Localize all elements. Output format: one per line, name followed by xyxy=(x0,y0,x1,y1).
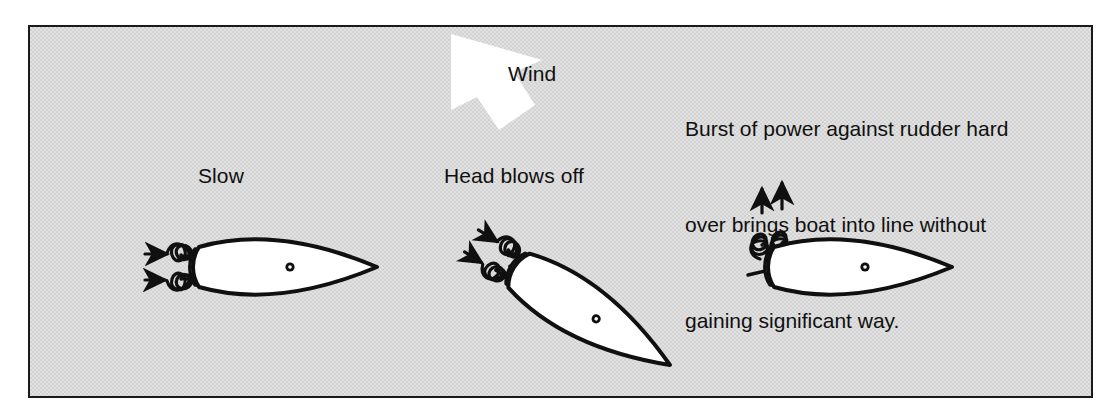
hull-slow xyxy=(193,239,377,294)
diagram-panel: Wind Slow Head blows off Burst of power … xyxy=(28,25,1093,398)
mast-dot-slow xyxy=(285,262,294,271)
stage-label-slow: Slow xyxy=(198,161,244,191)
stage-label-head-blows-off: Head blows off xyxy=(444,161,584,191)
hull-head-blows-off xyxy=(499,244,684,388)
diagram-root: Wind Slow Head blows off Burst of power … xyxy=(0,0,1119,420)
caption-line-3: gaining significant way. xyxy=(685,305,1085,337)
caption-line-2: over brings boat into line without xyxy=(685,209,1085,241)
boat-head-blows-off xyxy=(457,217,685,388)
caption-line-1: Burst of power against rudder hard xyxy=(685,113,1085,145)
wind-label: Wind xyxy=(508,59,556,89)
boat-slow xyxy=(145,239,377,294)
caption-block: Burst of power against rudder hard over … xyxy=(685,49,1085,398)
